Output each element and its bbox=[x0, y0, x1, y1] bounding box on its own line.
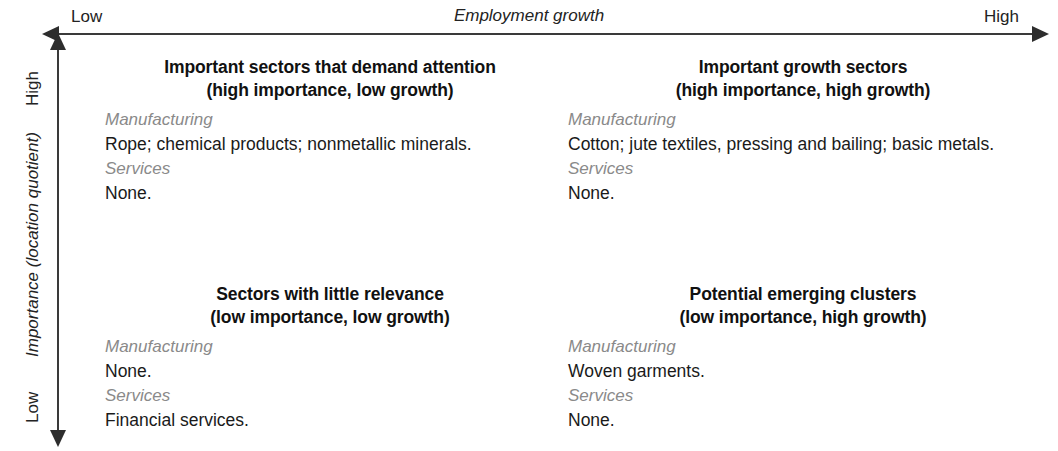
services-group-label: Services bbox=[568, 157, 1038, 181]
services-group-value: Financial services. bbox=[105, 408, 555, 433]
services-group-value: None. bbox=[568, 408, 1038, 433]
manufacturing-group-label: Manufacturing bbox=[105, 108, 555, 132]
x-axis-high-label: High bbox=[984, 8, 1019, 25]
services-group-value: None. bbox=[568, 181, 1020, 206]
x-axis-title: Employment growth bbox=[0, 7, 1058, 24]
quadrant-heading-line2: (low importance, low growth) bbox=[105, 306, 555, 329]
quadrant-heading-line1: Important growth sectors bbox=[568, 56, 1038, 79]
y-axis-top-arrowhead-icon bbox=[50, 33, 66, 50]
quadrant-high-importance-high-growth: Important growth sectors (high importanc… bbox=[568, 56, 1038, 266]
quadrant-heading: Sectors with little relevance (low impor… bbox=[105, 283, 555, 329]
manufacturing-group-value: Rope; chemical products; nonmetallic min… bbox=[105, 132, 547, 157]
manufacturing-group-label: Manufacturing bbox=[105, 335, 555, 359]
manufacturing-group-label: Manufacturing bbox=[568, 335, 1038, 359]
y-axis-bottom-arrowhead-icon bbox=[50, 430, 66, 447]
quadrant-matrix-figure: Low Employment growth High High Importan… bbox=[0, 0, 1058, 451]
quadrant-heading-line1: Potential emerging clusters bbox=[568, 283, 1038, 306]
manufacturing-group-value: Woven garments. bbox=[568, 359, 1038, 384]
y-axis-line bbox=[57, 48, 59, 436]
services-group-label: Services bbox=[105, 384, 555, 408]
quadrant-heading: Potential emerging clusters (low importa… bbox=[568, 283, 1038, 329]
services-group-value: None. bbox=[105, 181, 547, 206]
quadrant-heading-line2: (high importance, high growth) bbox=[568, 79, 1038, 102]
x-axis-line bbox=[58, 33, 1042, 35]
manufacturing-group-value: None. bbox=[105, 359, 555, 384]
y-axis-low-label: Low bbox=[24, 392, 41, 423]
y-axis-title: Importance (location quotient) bbox=[24, 132, 41, 357]
quadrant-heading: Important sectors that demand attention … bbox=[105, 56, 555, 102]
quadrant-heading-line2: (high importance, low growth) bbox=[105, 79, 555, 102]
y-axis-high-label: High bbox=[24, 71, 41, 106]
manufacturing-group-value: Cotton; jute textiles, pressing and bail… bbox=[568, 132, 1020, 157]
quadrant-heading-line1: Important sectors that demand attention bbox=[105, 56, 555, 79]
quadrant-heading-line2: (low importance, high growth) bbox=[568, 306, 1038, 329]
manufacturing-group-label: Manufacturing bbox=[568, 108, 1038, 132]
quadrant-heading-line1: Sectors with little relevance bbox=[105, 283, 555, 306]
quadrant-high-importance-low-growth: Important sectors that demand attention … bbox=[105, 56, 555, 266]
services-group-label: Services bbox=[568, 384, 1038, 408]
services-group-label: Services bbox=[105, 157, 555, 181]
quadrant-low-importance-high-growth: Potential emerging clusters (low importa… bbox=[568, 283, 1038, 448]
quadrant-heading: Important growth sectors (high importanc… bbox=[568, 56, 1038, 102]
x-axis-right-arrowhead-icon bbox=[1032, 26, 1049, 42]
quadrant-low-importance-low-growth: Sectors with little relevance (low impor… bbox=[105, 283, 555, 448]
